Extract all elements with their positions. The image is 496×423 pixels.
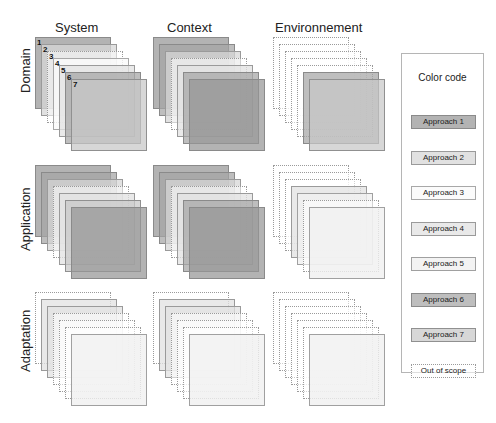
stack-domain-system: 1234567 [35, 37, 165, 167]
stack-domain-environnement [273, 37, 403, 167]
row-label-domain: Domain [18, 48, 33, 93]
layer-7-a7 [309, 79, 385, 151]
stack-application-context [153, 165, 283, 295]
row-label-application: Application [18, 187, 33, 251]
layer-7-a1 [71, 207, 147, 279]
layer-7-a5 [189, 334, 265, 406]
stack-adaptation-context [153, 292, 283, 422]
legend-item-out: Out of scope [411, 364, 476, 378]
stack-domain-context [153, 37, 283, 167]
legend-item-a2: Approach 2 [411, 151, 476, 165]
legend-item-a6: Approach 6 [411, 293, 476, 307]
layer-7-a5 [309, 207, 385, 279]
layer-7-a5 [71, 334, 147, 406]
stack-adaptation-environnement [273, 292, 403, 422]
legend-item-a5: Approach 5 [411, 257, 476, 271]
stack-application-system [35, 165, 165, 295]
column-header-environnement: Environnement [275, 20, 362, 35]
stack-application-environnement [273, 165, 403, 295]
legend-item-a4: Approach 4 [411, 222, 476, 236]
color-code-legend: Color code Approach 1Approach 2Approach … [401, 53, 484, 373]
legend-item-a1: Approach 1 [411, 115, 476, 129]
column-header-system: System [55, 20, 98, 35]
layer-7-a1 [189, 79, 265, 151]
layer-7-a7: 7 [71, 79, 147, 151]
layer-number: 7 [73, 80, 77, 89]
legend-title: Color code [402, 72, 483, 83]
stack-adaptation-system [35, 292, 165, 422]
row-label-adaptation: Adaptation [18, 310, 33, 372]
legend-item-a7: Approach 7 [411, 328, 476, 342]
layer-7-a1 [189, 207, 265, 279]
column-header-context: Context [167, 20, 212, 35]
legend-item-a3: Approach 3 [411, 186, 476, 200]
layer-7-a5 [309, 334, 385, 406]
